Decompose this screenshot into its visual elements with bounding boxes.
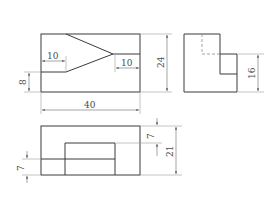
dim-notch-left-label: 10 xyxy=(47,51,59,61)
dim-width-label: 40 xyxy=(84,100,96,110)
side-view: 16 xyxy=(184,34,264,92)
drawing-canvas: 10 10 8 24 40 16 xyxy=(0,0,275,201)
dim-step-height-label: 16 xyxy=(247,67,257,79)
top-view: 7 21 7 xyxy=(16,118,182,183)
side-view-outline xyxy=(184,34,237,92)
dim-height-label: 24 xyxy=(156,56,166,68)
dim-bottom-offset-label: 8 xyxy=(18,79,28,85)
dim-bottom-offset-top-label: 7 xyxy=(16,165,26,171)
front-view: 10 10 8 24 40 xyxy=(18,34,172,114)
dim-top-offset-label: 7 xyxy=(146,133,156,139)
dim-notch-right-label: 10 xyxy=(121,58,133,68)
dim-depth-label: 21 xyxy=(165,146,175,157)
top-view-outline xyxy=(41,126,140,175)
